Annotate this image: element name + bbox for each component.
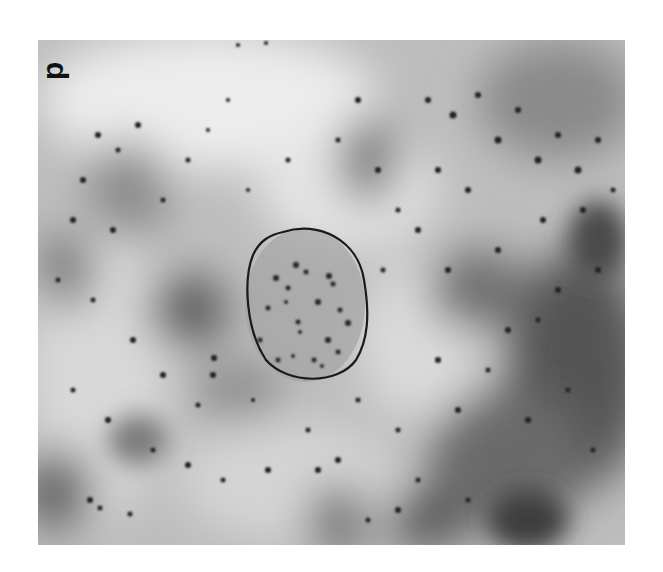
panel-label: d xyxy=(42,62,72,80)
micrograph-image xyxy=(38,40,625,545)
